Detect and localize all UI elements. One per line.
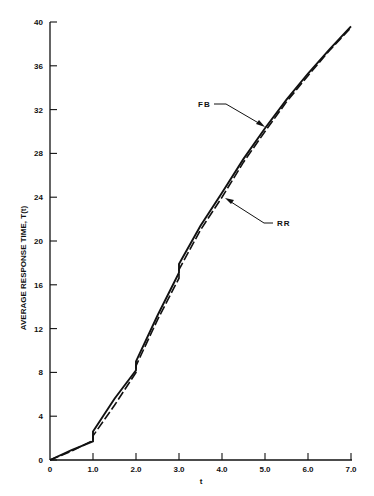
x-tick-label: 4.0 bbox=[216, 465, 228, 474]
y-tick-label: 24 bbox=[34, 193, 43, 202]
y-tick-label: 4 bbox=[39, 412, 44, 421]
axes: 0481216202428323640 01.02.03.04.05.06.07… bbox=[34, 18, 357, 474]
y-tick-label: 0 bbox=[39, 456, 44, 465]
x-tick-label: 6.0 bbox=[302, 465, 314, 474]
series-layer bbox=[50, 26, 351, 460]
fb-series-line bbox=[50, 26, 351, 460]
y-axis-title: AVERAGE RESPONSE TIME, T(t) bbox=[19, 206, 28, 331]
rr-leader-line bbox=[228, 200, 264, 223]
x-tick-label: 1.0 bbox=[87, 465, 99, 474]
y-tick-label: 32 bbox=[34, 106, 43, 115]
y-tick-label: 20 bbox=[34, 237, 43, 246]
fb-arrowhead-icon bbox=[256, 120, 265, 127]
y-ticks: 0481216202428323640 bbox=[34, 18, 57, 465]
x-tick-label: 2.0 bbox=[130, 465, 142, 474]
x-tick-label: 3.0 bbox=[173, 465, 185, 474]
x-tick-label: 5.0 bbox=[259, 465, 271, 474]
y-tick-label: 36 bbox=[34, 62, 43, 71]
fb-annotation-label: FB bbox=[198, 100, 211, 109]
chart: 0481216202428323640 01.02.03.04.05.06.07… bbox=[0, 0, 374, 496]
y-tick-label: 40 bbox=[34, 18, 43, 27]
y-tick-label: 28 bbox=[34, 149, 43, 158]
x-axis-title: t bbox=[200, 477, 203, 486]
fb-leader-line bbox=[226, 104, 262, 125]
y-tick-label: 12 bbox=[34, 325, 43, 334]
rr-annotation-label: RR bbox=[277, 219, 291, 228]
x-ticks: 01.02.03.04.05.06.07.0 bbox=[48, 453, 357, 474]
x-tick-label: 7.0 bbox=[345, 465, 357, 474]
y-tick-label: 8 bbox=[39, 368, 44, 377]
rr-series-line bbox=[50, 28, 351, 461]
y-tick-label: 16 bbox=[34, 281, 43, 290]
x-tick-label: 0 bbox=[48, 465, 53, 474]
